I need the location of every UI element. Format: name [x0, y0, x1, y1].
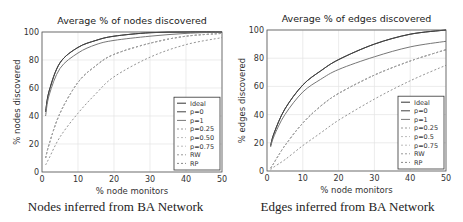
- y-tick-label: 40: [29, 112, 39, 121]
- nodes-chart-y-axis-label: % nodes discovered: [12, 59, 22, 144]
- legend-label: RP: [414, 159, 423, 167]
- x-tick-label: 50: [441, 174, 451, 183]
- legend-label: Ideal: [414, 99, 430, 107]
- y-tick-label: 100: [249, 26, 264, 35]
- nodes-line-chart: Average % of nodes discovered01020304050…: [0, 0, 231, 200]
- x-tick-label: 50: [217, 175, 227, 184]
- nodes-chart-title: Average % of nodes discovered: [57, 15, 207, 26]
- legend-label: RW: [190, 151, 201, 159]
- y-tick-label: 100: [24, 28, 39, 37]
- x-tick-label: 10: [298, 174, 308, 183]
- x-tick-label: 30: [369, 174, 379, 183]
- x-tick-label: 0: [264, 174, 269, 183]
- legend-label: p=0: [190, 108, 204, 116]
- edges-chart-caption: Edges inferred from BA Network: [232, 199, 463, 215]
- x-tick-label: 40: [181, 175, 191, 184]
- nodes-chart-legend: Idealp=0p=1p=0.25p=0.50p=0.75RWRP: [174, 97, 220, 170]
- edges-chart-title: Average % of edges discovered: [282, 13, 432, 24]
- legend-label: p=0: [414, 107, 428, 115]
- x-tick-label: 0: [39, 175, 44, 184]
- edges-chart-legend: Idealp=0p=1p=0.25p=0.5p=0.75RWRP: [398, 96, 444, 169]
- edges-chart-y-axis-label: % edges discovered: [237, 58, 247, 143]
- y-tick-label: 0: [259, 167, 264, 176]
- nodes-chart-x-axis-label: % node monitors: [96, 186, 169, 196]
- x-tick-label: 20: [334, 174, 344, 183]
- y-tick-label: 0: [34, 168, 39, 177]
- edges-chart-x-axis-label: % node monitors: [320, 185, 393, 195]
- nodes-chart-caption: Nodes inferred from BA Network: [0, 199, 231, 215]
- legend-label: p=0.25: [414, 124, 438, 132]
- legend-label: RP: [190, 160, 199, 168]
- y-tick-label: 80: [254, 54, 264, 63]
- x-tick-label: 30: [145, 175, 155, 184]
- legend-label: p=0.50: [190, 134, 214, 142]
- edges-line-chart: Average % of edges discovered01020304050…: [232, 0, 463, 200]
- x-tick-label: 10: [73, 175, 83, 184]
- y-tick-label: 40: [254, 111, 264, 120]
- y-tick-label: 80: [29, 56, 39, 65]
- y-tick-label: 60: [254, 82, 264, 91]
- edges-chart-panel: Average % of edges discovered01020304050…: [232, 0, 463, 222]
- legend-label: p=0.75: [414, 142, 438, 150]
- legend-label: p=0.5: [414, 133, 434, 141]
- y-tick-label: 20: [254, 139, 264, 148]
- legend-label: p=1: [414, 116, 428, 124]
- legend-label: RW: [414, 150, 425, 158]
- legend-label: p=1: [190, 117, 204, 125]
- nodes-chart-panel: Average % of nodes discovered01020304050…: [0, 0, 231, 222]
- y-tick-label: 60: [29, 84, 39, 93]
- x-tick-label: 40: [405, 174, 415, 183]
- x-tick-label: 20: [109, 175, 119, 184]
- legend-label: p=0.75: [190, 143, 214, 151]
- legend-label: p=0.25: [190, 125, 214, 133]
- legend-label: Ideal: [190, 100, 206, 108]
- y-tick-label: 20: [29, 140, 39, 149]
